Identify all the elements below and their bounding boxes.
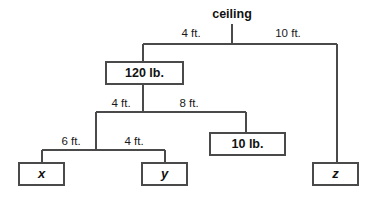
length-label-tier2-left: 4 ft.: [111, 97, 130, 109]
length-label-tier3-right: 4 ft.: [124, 135, 143, 147]
connector-group: [42, 24, 337, 163]
length-label-ceiling-left: 4 ft.: [181, 27, 200, 39]
length-label-ceiling-right: 10 ft.: [275, 27, 301, 39]
diagram-canvas: ceiling 4 ft. 10 ft. 4 ft. 8 ft. 6 ft. 4…: [0, 0, 374, 201]
node-box-z: z: [313, 163, 358, 185]
mobile-balance-diagram: ceiling 4 ft. 10 ft. 4 ft. 8 ft. 6 ft. 4…: [0, 0, 374, 201]
node-box-x: x: [19, 163, 64, 185]
length-label-tier3-left: 6 ft.: [61, 135, 80, 147]
node-box-10lb: 10 lb.: [210, 133, 285, 155]
length-label-group: 4 ft. 10 ft. 4 ft. 8 ft. 6 ft. 4 ft.: [61, 27, 300, 147]
node-box-y-label: y: [160, 166, 169, 181]
node-box-10lb-label: 10 lb.: [232, 137, 264, 151]
node-box-120lb-label: 120 lb.: [125, 66, 164, 80]
node-box-x-label: x: [37, 166, 46, 181]
node-box-y: y: [142, 163, 187, 185]
node-box-group: 120 lb. 10 lb. x y z: [19, 62, 358, 185]
node-box-z-label: z: [331, 166, 339, 181]
ceiling-anchor-label: ceiling: [212, 7, 252, 21]
length-label-tier2-right: 8 ft.: [179, 97, 198, 109]
node-box-120lb: 120 lb.: [106, 62, 183, 84]
